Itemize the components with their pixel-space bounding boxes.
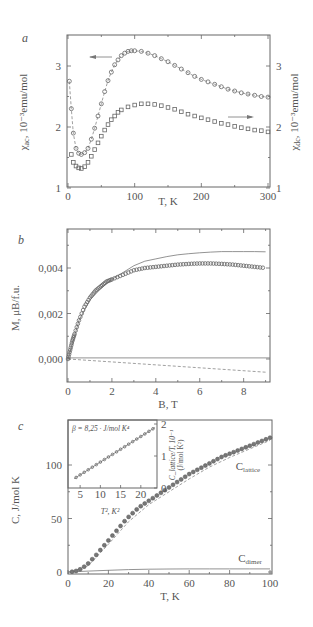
left-arrow-icon — [89, 55, 112, 59]
data-point — [248, 444, 252, 448]
data-point — [206, 80, 210, 84]
data-point — [106, 538, 110, 542]
data-point — [220, 122, 224, 126]
panel-a-frame — [67, 35, 270, 187]
data-point — [86, 561, 90, 565]
data-point — [106, 123, 110, 127]
tick-label: 60 — [184, 577, 196, 589]
data-point — [191, 470, 195, 474]
tick-label: 2 — [276, 121, 282, 133]
tick-label: 0 — [65, 577, 71, 589]
data-point — [116, 58, 120, 62]
data-point — [153, 54, 157, 58]
data-point — [96, 141, 100, 145]
tick-label: 50 — [51, 513, 63, 525]
right-arrow-icon — [228, 115, 254, 119]
tick-label: 2 — [161, 418, 167, 430]
tick-label: 2 — [109, 385, 115, 397]
tick-label: 100 — [46, 459, 63, 471]
data-point — [211, 459, 215, 463]
data-point — [143, 502, 147, 506]
panel-a-ylabel-right: χdc, 10⁻³emu/mol — [288, 73, 302, 151]
tick-label: 100 — [262, 577, 279, 589]
data-point — [260, 439, 264, 443]
data-point — [100, 134, 104, 138]
panel-c-inset: 5101520012 β = 8,25 · J/mol K⁴ T², K² C_… — [68, 418, 185, 516]
data-point — [207, 461, 211, 465]
panel-a: a 0100200300123123 T, K χac, 10⁻³emu/mol… — [17, 31, 302, 207]
data-point — [110, 534, 114, 538]
tick-label: 0 — [161, 482, 167, 494]
data-point — [203, 464, 207, 468]
panel-b-xlabel: B, T — [158, 398, 178, 410]
panel-a-label: a — [22, 31, 28, 45]
data-point — [70, 570, 74, 574]
tick-label: 10 — [95, 488, 107, 500]
tick-label: 300 — [260, 190, 277, 202]
data-point — [187, 472, 191, 476]
tick-label: 200 — [193, 190, 210, 202]
data-point — [167, 485, 171, 489]
data-point — [252, 442, 256, 446]
tick-label: 5 — [77, 488, 83, 500]
data-point — [266, 130, 270, 134]
data-point — [126, 105, 130, 109]
panel-c-xlabel: T, K — [160, 590, 179, 602]
tick-label: 0 — [65, 190, 71, 202]
data-point — [233, 125, 237, 129]
data-point — [155, 493, 159, 497]
data-point — [151, 496, 155, 500]
tick-label: 100 — [126, 190, 143, 202]
data-point — [193, 74, 197, 78]
data-point — [253, 128, 257, 132]
data-point — [147, 499, 151, 503]
data-point — [215, 457, 219, 461]
panel-c: c 020406080100050100 Clattice Cdimer T, … — [9, 418, 279, 602]
data-point — [153, 103, 157, 107]
data-point — [228, 452, 232, 456]
tick-label: 20 — [103, 577, 115, 589]
panel-b-ylabel: M, μB/f.u. — [9, 285, 21, 331]
tick-label: 20 — [135, 488, 147, 500]
data-point — [131, 511, 135, 515]
data-point — [193, 114, 197, 118]
panel-a-series — [67, 49, 270, 171]
tick-label: 40 — [143, 577, 155, 589]
c-lattice-label: Clattice — [236, 460, 260, 474]
data-point — [244, 445, 248, 449]
data-point — [183, 475, 187, 479]
data-point — [173, 108, 177, 112]
data-point — [83, 151, 87, 155]
data-point — [180, 110, 184, 114]
data-point — [90, 154, 94, 158]
data-point — [206, 118, 210, 122]
data-point — [70, 153, 74, 157]
tick-label: 8 — [241, 385, 247, 397]
data-point — [133, 103, 137, 107]
tick-label: 3 — [56, 60, 62, 72]
data-point — [226, 123, 230, 127]
data-point — [224, 453, 228, 457]
c-dimer-label: Cdimer — [238, 552, 262, 566]
data-point — [195, 468, 199, 472]
data-point — [109, 70, 113, 74]
data-point — [114, 529, 118, 533]
inset-title: β = 8,25 · J/mol K⁴ — [71, 424, 130, 433]
data-point — [135, 507, 139, 511]
inset-ylabel-2: (J/mol K²) — [176, 439, 185, 471]
panel-a-xlabel: T, K — [158, 195, 177, 207]
data-point — [213, 120, 217, 124]
tick-label: 1 — [276, 182, 282, 194]
panel-a-ylabel-left: χac, 10⁻³emu/mol — [17, 74, 31, 152]
tick-label: 1 — [161, 450, 167, 462]
data-point — [266, 95, 270, 99]
tick-label: 0 — [57, 566, 63, 578]
data-point — [139, 504, 143, 508]
data-point — [102, 543, 106, 547]
data-point — [166, 106, 170, 110]
data-point — [94, 553, 98, 557]
data-point — [256, 441, 260, 445]
tick-label: 0,002 — [38, 308, 63, 320]
data-point — [93, 148, 97, 152]
data-point — [186, 112, 190, 116]
